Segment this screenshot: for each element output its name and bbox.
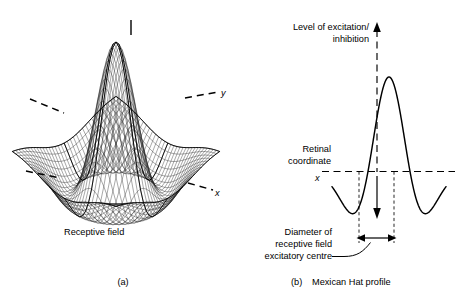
axis-y-label: y: [220, 88, 227, 98]
vertical-axis-arrowhead-icon: [373, 22, 381, 32]
mesh-gridline: [64, 42, 168, 217]
axis-x-label: x: [214, 188, 220, 198]
panel-b-caption-prefix: (b): [291, 277, 302, 287]
annotation-leader-line: [332, 243, 371, 257]
panel-b-svg: Level of excitation/ inhibition Retinal …: [231, 0, 463, 305]
panel-b-caption-text: Mexican Hat profile: [312, 277, 391, 287]
panel-a-caption: (a): [117, 277, 128, 287]
vertical-axis-label-line2: inhibition: [333, 34, 369, 44]
panel-a-receptive-field: y x Receptive field (a): [0, 0, 232, 305]
mexican-hat-curve: [332, 77, 446, 214]
axis-x-dash-near: [188, 183, 213, 190]
mesh-gridline: [64, 42, 168, 217]
horizontal-axis-label-line1: Retinal: [302, 144, 331, 154]
annotation-line2: receptive field: [275, 239, 332, 249]
panel-a-svg: y x Receptive field (a): [0, 0, 232, 305]
receptive-field-label: Receptive field: [64, 227, 124, 237]
mesh-gridline: [64, 42, 168, 217]
annotation-line1: Diameter of: [285, 227, 333, 237]
diameter-arrowhead-left-icon: [357, 234, 366, 241]
vertical-axis-label-line1: Level of excitation/: [293, 22, 370, 32]
diameter-arrowhead-right-icon: [388, 234, 397, 241]
axis-y-dash-far: [30, 99, 64, 113]
axis-y-dash-near: [185, 92, 218, 98]
mesh-gridline: [64, 42, 168, 217]
horizontal-axis-symbol: x: [314, 173, 320, 183]
amplitude-arrowhead-icon: [373, 208, 381, 219]
horizontal-axis-label-line2: coordinate: [288, 156, 331, 166]
mesh-gridline: [46, 148, 150, 224]
mesh-gridline: [12, 96, 219, 206]
figure-mexican-hat-receptive-field: y x Receptive field (a): [0, 0, 463, 305]
receptive-field-mesh: [12, 42, 219, 225]
mesh-gridline: [82, 148, 186, 224]
annotation-line3: excitatory centre: [265, 251, 332, 261]
panel-b-mexican-hat-profile: Level of excitation/ inhibition Retinal …: [231, 0, 463, 305]
